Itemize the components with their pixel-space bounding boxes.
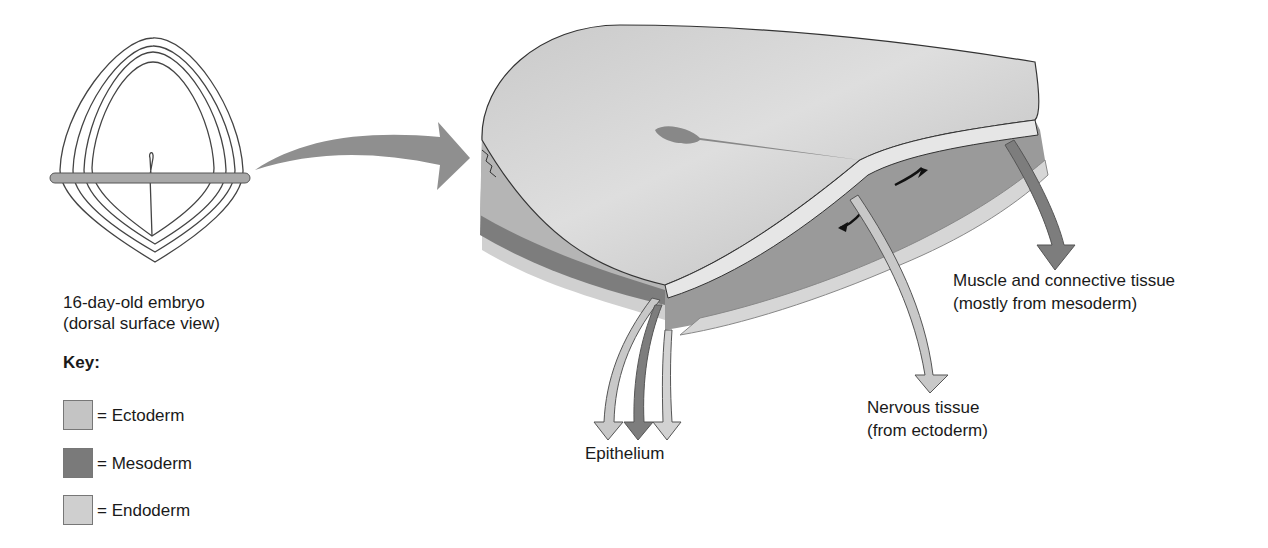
key-endoderm-label: = Endoderm (97, 500, 190, 521)
nervous-label-line2: (from ectoderm) (867, 420, 988, 441)
key-mesoderm-label: = Mesoderm (97, 453, 192, 474)
epithelium-label: Epithelium (585, 443, 664, 464)
key-title: Key: (63, 352, 100, 373)
section-bar (50, 173, 250, 183)
ectoderm-swatch (63, 400, 93, 430)
embryo-caption-line2: (dorsal surface view) (63, 313, 220, 334)
transition-arrow (255, 122, 470, 190)
epithelium-arrow-mesoderm (624, 305, 662, 440)
embryo-dorsal-view (60, 38, 243, 262)
muscle-label-line1: Muscle and connective tissue (953, 270, 1175, 291)
endoderm-swatch (63, 495, 93, 525)
nervous-label-line1: Nervous tissue (867, 397, 979, 418)
key-ectoderm-label: = Ectoderm (97, 405, 184, 426)
muscle-label-line2: (mostly from mesoderm) (953, 293, 1137, 314)
embryo-caption-line1: 16-day-old embryo (63, 292, 205, 313)
mesoderm-swatch (63, 448, 93, 478)
epithelium-arrow-endoderm (653, 330, 681, 440)
